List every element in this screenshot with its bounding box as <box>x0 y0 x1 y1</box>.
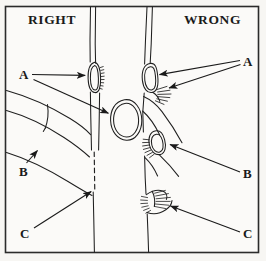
budding-technique-diagram: RIGHT WRONG A B C A B C <box>0 0 266 261</box>
label-left-a: A <box>19 68 28 81</box>
heading-right: RIGHT <box>28 13 76 27</box>
diagram-canvas <box>0 0 266 261</box>
heading-wrong: WRONG <box>184 13 241 27</box>
label-right-a: A <box>243 55 252 68</box>
left-stem-left-edge <box>90 7 91 62</box>
label-left-c: C <box>20 227 29 240</box>
diagram-border <box>6 7 259 253</box>
label-right-c: C <box>243 227 252 240</box>
label-left-b: B <box>19 165 28 178</box>
label-right-b: B <box>243 167 252 180</box>
